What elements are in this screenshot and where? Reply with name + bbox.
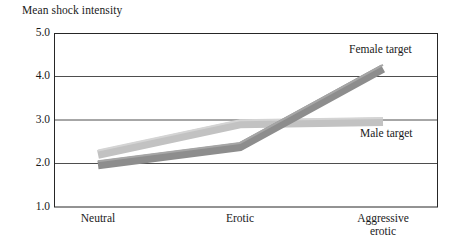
series-label-male-target: Male target	[360, 127, 412, 139]
series-label-female-target: Female target	[349, 43, 412, 55]
x-tick-erotic: Erotic	[200, 212, 280, 225]
series-female-target	[98, 65, 383, 165]
x-tick-neutral: Neutral	[58, 212, 138, 225]
plot-area	[0, 0, 456, 243]
x-tick-aggressive-erotic-line1: Aggressive	[343, 212, 423, 225]
line-chart: Mean shock intensity 5.0 4.0 3.0 2.0 1.0…	[0, 0, 456, 243]
x-tick-aggressive-erotic-line2: erotic	[343, 225, 423, 238]
